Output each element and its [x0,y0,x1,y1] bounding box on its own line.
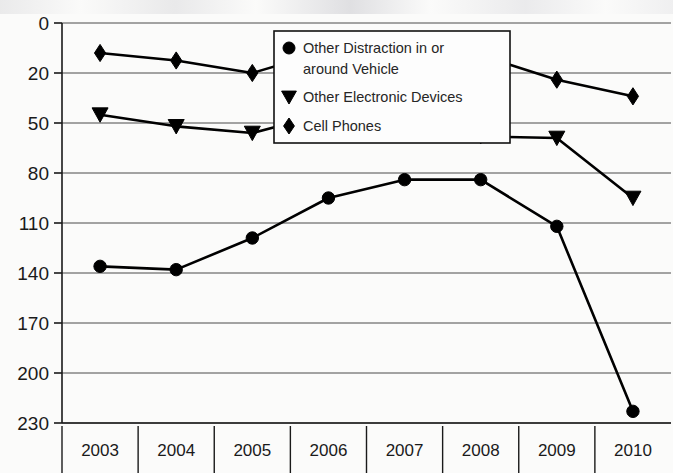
x-tick-label-2008: 2008 [462,441,500,460]
x-axis-label-group: 20032004200520062007200820092010 [62,426,652,473]
x-tick-label-2004: 2004 [157,441,195,460]
x-tick-label-2006: 2006 [310,441,348,460]
data-point-diamond-2004 [171,52,182,69]
series-line-circle [100,180,633,412]
data-point-diamond-2010 [627,88,638,105]
data-point-diamond-2009 [551,71,562,88]
y-tick-label-110: 110 [19,213,49,234]
data-point-circle-2004 [170,263,182,275]
y-tick-label-140: 140 [17,263,49,284]
data-point-diamond-2005 [247,64,258,81]
legend-label-circle-marker-line2: around Vehicle [303,61,399,77]
legend-label-circle-marker: Other Distraction in or [303,40,444,56]
x-tick-label-2010: 2010 [614,441,652,460]
legend-label-diamond-marker: Cell Phones [303,118,381,134]
data-point-circle-2005 [246,232,258,244]
y-tick-label-80: 80 [28,163,49,184]
x-tick-label-2009: 2009 [538,441,576,460]
legend-circle-marker [283,42,295,54]
x-tick-label-2005: 2005 [233,441,271,460]
y-axis-tick-group: 0205080110140170200230 [17,13,62,434]
x-tick-label-2007: 2007 [386,441,424,460]
data-point-circle-2007 [398,173,410,185]
data-point-circle-2010 [627,405,639,417]
y-tick-label-50: 50 [28,113,49,134]
legend-label-triangle-marker: Other Electronic Devices [303,89,463,105]
series-circle [94,173,639,417]
data-point-circle-2006 [322,192,334,204]
data-point-circle-2008 [474,173,486,185]
x-tick-label-2003: 2003 [81,441,119,460]
y-tick-label-170: 170 [17,313,49,334]
legend-circle-icon [283,42,295,54]
chart-legend: Other Distraction in oraround VehicleOth… [274,31,510,143]
data-point-circle-2009 [551,220,563,232]
chart-figure: 0205080110140170200230 Other Distraction… [0,0,673,473]
data-point-triangle-2010 [625,191,641,205]
y-tick-label-20: 20 [28,63,49,84]
line-chart-canvas: 0205080110140170200230 Other Distraction… [0,0,673,473]
data-point-circle-2003 [94,260,106,272]
y-tick-label-230: 230 [17,413,49,434]
y-tick-label-0: 0 [38,13,49,34]
y-tick-label-200: 200 [17,363,49,384]
data-point-diamond-2003 [94,44,105,61]
